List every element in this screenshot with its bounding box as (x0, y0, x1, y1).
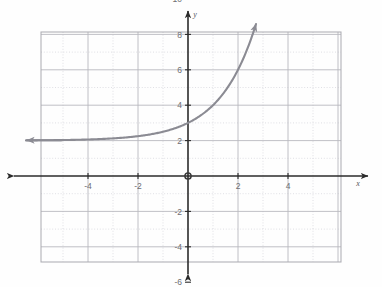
x-tick-label: -2 (134, 181, 142, 191)
y-tick-label: 6 (177, 65, 182, 75)
y-tick-label: -6 (174, 277, 182, 287)
y-tick-label: 8 (177, 30, 182, 40)
x-tick-label: 2 (236, 181, 241, 191)
coordinate-plane-chart: -4-224 108642-2-4-6 x y (0, 0, 382, 287)
y-tick-label: -4 (174, 242, 182, 252)
x-tick-label: -4 (84, 181, 92, 191)
y-tick-label: -2 (174, 207, 182, 217)
graph-canvas: -4-224 108642-2-4-6 x y (0, 0, 382, 287)
x-tick-label: 4 (286, 181, 291, 191)
y-tick-label: 4 (177, 100, 182, 110)
chart-background (0, 0, 382, 287)
y-tick-label: 2 (177, 136, 182, 146)
y-tick-label: 10 (173, 0, 183, 4)
x-axis-label: x (355, 179, 360, 188)
y-axis-label: y (192, 10, 197, 19)
